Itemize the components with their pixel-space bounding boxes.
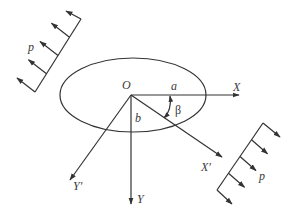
- load-arrow: [217, 190, 232, 204]
- y-axis-label: Y: [137, 193, 144, 205]
- x-axis-label: X: [233, 81, 240, 93]
- load-arrow: [17, 78, 35, 92]
- x-prime-axis-label: X′: [201, 161, 211, 173]
- semi-minor-axis-label: b: [135, 112, 141, 124]
- load-arrow: [240, 157, 256, 171]
- origin-label: O: [122, 79, 131, 91]
- top-left-load: [17, 11, 81, 92]
- top-left-load-label: p: [28, 41, 34, 53]
- load-arrow: [40, 42, 58, 56]
- diagram-canvas: O a b β X Y X′ Y′ p p: [0, 0, 297, 217]
- y-prime-axis-arrow: [70, 95, 131, 180]
- load-arrow: [263, 123, 280, 137]
- load-arrow: [252, 140, 268, 154]
- y-prime-axis-label: Y′: [73, 180, 82, 192]
- coordinate-axes: [70, 95, 239, 204]
- load-arrow: [29, 60, 47, 74]
- load-arrow: [229, 173, 245, 187]
- diagram-drawing: [0, 0, 297, 217]
- semi-major-axis-label: a: [171, 80, 177, 92]
- bottom-right-load: [217, 123, 280, 204]
- angle-beta-label: β: [175, 104, 181, 116]
- bottom-right-load-label: p: [259, 170, 265, 182]
- load-arrow: [66, 11, 81, 19]
- load-arrow: [52, 23, 70, 37]
- angle-beta-arc: [164, 96, 170, 118]
